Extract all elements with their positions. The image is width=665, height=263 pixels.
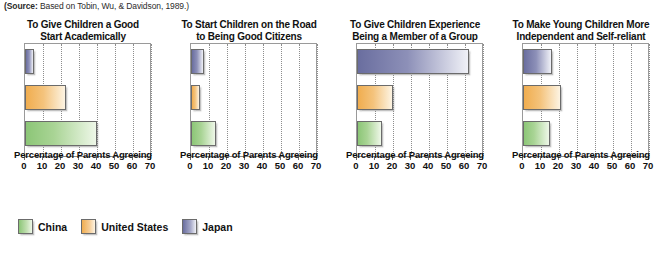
tick-label: 0: [353, 160, 358, 171]
chart-panels: To Give Children a GoodStart Academicall…: [0, 18, 665, 208]
tick-label: 0: [21, 160, 26, 171]
tick-label: 70: [145, 160, 156, 171]
bar-japan: [357, 49, 469, 74]
gridline: [483, 44, 484, 156]
chart-legend: ChinaUnited StatesJapan: [18, 219, 233, 234]
bar-japan: [523, 49, 552, 74]
tick-label: 20: [221, 160, 232, 171]
x-axis-tick-labels: 010203040506070: [190, 160, 317, 173]
bar-japan: [25, 49, 34, 74]
gridline: [649, 44, 650, 156]
plot-area: 010203040506070: [8, 43, 158, 163]
tick-label: 60: [459, 160, 470, 171]
panel-title: To Start Children on the Roadto Being Go…: [166, 18, 332, 43]
bar-china: [25, 121, 97, 146]
tick-label: 60: [293, 160, 304, 171]
x-axis-label: Percentage of Parents Agreeing: [332, 149, 498, 160]
panel-title-line: To Give Children a Good: [6, 19, 160, 31]
tick-label: 20: [55, 160, 66, 171]
x-axis-label: Percentage of Parents Agreeing: [0, 149, 166, 160]
tick-label: 10: [203, 160, 214, 171]
panel-title-line: To Give Children Experience: [338, 19, 492, 31]
bar-united-states: [25, 85, 66, 110]
legend-item-china: China: [18, 219, 67, 234]
tick-label: 40: [91, 160, 102, 171]
legend-label: United States: [101, 221, 168, 233]
tick-label: 50: [441, 160, 452, 171]
panel-title: To Give Children a GoodStart Academicall…: [0, 18, 166, 43]
panel-title-line: Being a Member of a Group: [338, 31, 492, 43]
chart-panel-4: To Make Young Children MoreIndependent a…: [498, 18, 664, 208]
bar-group: [523, 43, 649, 156]
tick-label: 70: [311, 160, 322, 171]
x-axis-tick-labels: 010203040506070: [522, 160, 649, 173]
legend-swatch: [182, 219, 197, 234]
bar-group: [25, 43, 151, 156]
tick-label: 60: [625, 160, 636, 171]
bar-china: [523, 121, 550, 146]
tick-label: 10: [535, 160, 546, 171]
tick-label: 60: [127, 160, 138, 171]
tick-label: 30: [571, 160, 582, 171]
source-text: Based on Tobin, Wu, & Davidson, 1989.): [38, 1, 189, 11]
bar-united-states: [357, 85, 393, 110]
tick-label: 40: [423, 160, 434, 171]
chart-panel-2: To Start Children on the Roadto Being Go…: [166, 18, 332, 208]
plot-area: 010203040506070: [340, 43, 490, 163]
tick-label: 50: [109, 160, 120, 171]
tick-label: 50: [275, 160, 286, 171]
tick-label: 30: [239, 160, 250, 171]
tick-label: 0: [519, 160, 524, 171]
panel-title-line: Independent and Self-reliant: [504, 31, 658, 43]
legend-label: China: [38, 221, 67, 233]
chart-panel-1: To Give Children a GoodStart Academicall…: [0, 18, 166, 208]
tick-label: 40: [589, 160, 600, 171]
panel-title-line: To Start Children on the Road: [172, 19, 326, 31]
plot-area: 010203040506070: [506, 43, 656, 163]
x-axis-tick-labels: 010203040506070: [356, 160, 483, 173]
panel-title-line: to Being Good Citizens: [172, 31, 326, 43]
tick-label: 70: [643, 160, 654, 171]
plot-area: 010203040506070: [174, 43, 324, 163]
x-axis-label: Percentage of Parents Agreeing: [498, 149, 664, 160]
panel-title: To Make Young Children MoreIndependent a…: [498, 18, 664, 43]
legend-item-japan: Japan: [182, 219, 232, 234]
bar-china: [191, 121, 216, 146]
bar-china: [357, 121, 382, 146]
chart-panel-3: To Give Children ExperienceBeing a Membe…: [332, 18, 498, 208]
tick-label: 30: [405, 160, 416, 171]
bar-united-states: [523, 85, 561, 110]
source-note: (Source: Based on Tobin, Wu, & Davidson,…: [4, 1, 189, 11]
source-label: (Source:: [4, 1, 38, 11]
gridline: [151, 44, 152, 156]
tick-label: 40: [257, 160, 268, 171]
tick-label: 20: [553, 160, 564, 171]
panel-title-line: Start Academically: [6, 31, 160, 43]
tick-label: 0: [187, 160, 192, 171]
x-axis-label: Percentage of Parents Agreeing: [166, 149, 332, 160]
gridline: [317, 44, 318, 156]
tick-label: 10: [37, 160, 48, 171]
tick-label: 50: [607, 160, 618, 171]
bar-united-states: [191, 85, 200, 110]
legend-item-united-states: United States: [81, 219, 168, 234]
panel-title-line: To Make Young Children More: [504, 19, 658, 31]
legend-swatch: [81, 219, 96, 234]
legend-label: Japan: [202, 221, 232, 233]
bar-group: [191, 43, 317, 156]
tick-label: 20: [387, 160, 398, 171]
bar-group: [357, 43, 483, 156]
bar-japan: [191, 49, 204, 74]
x-axis-tick-labels: 010203040506070: [24, 160, 151, 173]
panel-title: To Give Children ExperienceBeing a Membe…: [332, 18, 498, 43]
tick-label: 10: [369, 160, 380, 171]
tick-label: 30: [73, 160, 84, 171]
legend-swatch: [18, 219, 33, 234]
tick-label: 70: [477, 160, 488, 171]
